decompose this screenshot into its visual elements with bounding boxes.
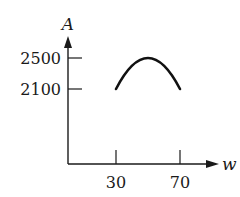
y-axis-label: A — [60, 14, 74, 34]
parabola-curve — [116, 58, 180, 89]
chart: 2500 2100 30 70 A w — [0, 0, 240, 197]
y-axis-arrow-icon — [64, 36, 72, 48]
x-axis-label: w — [222, 154, 237, 174]
x-tick-label-30: 30 — [106, 173, 126, 192]
y-tick-label-2500: 2500 — [20, 49, 61, 68]
x-axis-arrow-icon — [206, 160, 219, 168]
y-tick-label-2100: 2100 — [20, 80, 61, 99]
x-tick-label-70: 70 — [170, 173, 190, 192]
